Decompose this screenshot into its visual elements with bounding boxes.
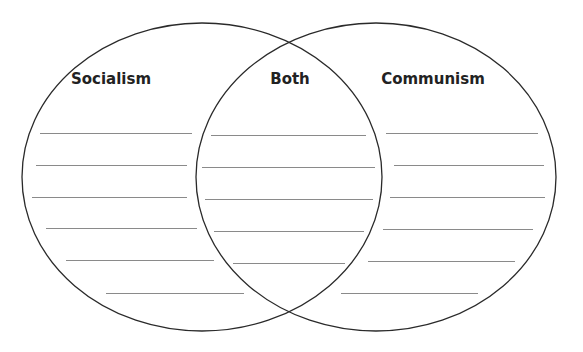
center-writing-line: [202, 167, 375, 168]
communism-label: Communism: [381, 70, 485, 88]
left-writing-line: [66, 260, 214, 261]
socialism-label: Socialism: [71, 70, 151, 88]
left-writing-line: [46, 228, 197, 229]
left-writing-line: [36, 165, 187, 166]
both-label: Both: [270, 70, 310, 88]
center-writing-line: [214, 231, 364, 232]
right-writing-line: [394, 165, 544, 166]
center-writing-line: [205, 199, 373, 200]
left-writing-line: [40, 133, 192, 134]
right-writing-line: [390, 197, 545, 198]
right-writing-line: [341, 293, 478, 294]
center-writing-line: [233, 263, 345, 264]
left-writing-line: [32, 197, 187, 198]
left-writing-line: [106, 293, 244, 294]
right-writing-line: [368, 261, 515, 262]
venn-diagram: [0, 0, 583, 352]
right-writing-line: [383, 229, 533, 230]
communism-circle: [196, 23, 556, 331]
center-writing-line: [211, 135, 366, 136]
right-writing-line: [386, 133, 538, 134]
